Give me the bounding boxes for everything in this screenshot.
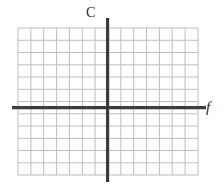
x-axis-label: f xyxy=(206,100,210,115)
y-axis-label: C xyxy=(86,6,95,20)
coordinate-plane xyxy=(0,0,224,185)
graph-figure: C f xyxy=(0,0,224,185)
